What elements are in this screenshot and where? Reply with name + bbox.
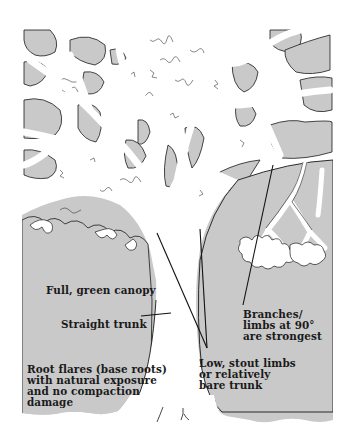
label-branches-line-3: are strongest <box>243 331 322 342</box>
label-low-stout-limbs: Low, stout limbs or relatively bare trun… <box>199 358 296 391</box>
label-straight-trunk: Straight trunk <box>61 319 147 330</box>
label-roots-line-4: damage <box>27 397 167 408</box>
label-branches-90: Branches/ limbs at 90° are strongest <box>243 309 322 342</box>
label-limbs-line-3: bare trunk <box>199 380 296 391</box>
root-marks <box>157 407 189 422</box>
label-root-flares: Root flares (base roots) with natural ex… <box>27 364 167 408</box>
label-full-canopy: Full, green canopy <box>46 285 156 296</box>
